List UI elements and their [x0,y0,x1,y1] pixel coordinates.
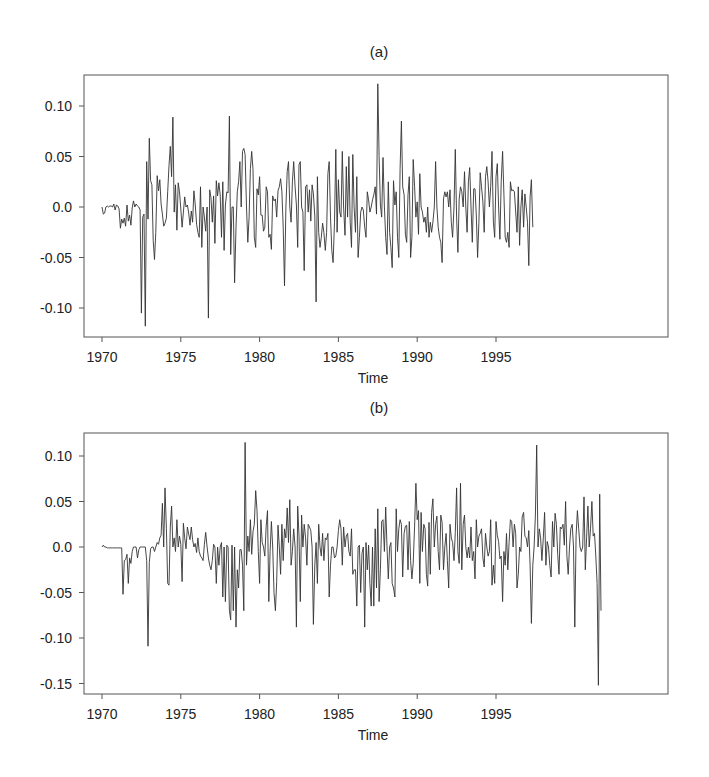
x-tick-label: 1970 [86,349,117,365]
y-tick-label: 0.10 [45,98,72,114]
x-tick-label: 1970 [86,706,117,722]
y-tick-label: -0.05 [40,250,72,266]
chart-canvas: 197019751980198519901995Time0.100.050.0-… [0,0,709,777]
series-line-a [102,84,533,326]
series-line-b [102,442,601,685]
x-tick-label: 1985 [323,349,354,365]
x-tick-label: 1995 [480,349,511,365]
y-tick-label: 0.0 [53,199,73,215]
x-tick-label: 1980 [244,706,275,722]
x-axis-title: Time [358,370,389,386]
x-tick-label: 1975 [165,706,196,722]
x-axis-title: Time [358,727,389,743]
y-tick-label: 0.10 [45,448,72,464]
y-tick-label: -0.10 [40,630,72,646]
x-tick-label: 1995 [480,706,511,722]
y-tick-label: 0.05 [45,494,72,510]
y-tick-label: 0.05 [45,149,72,165]
y-tick-label: -0.15 [40,676,72,692]
x-tick-label: 1975 [165,349,196,365]
x-tick-label: 1985 [323,706,354,722]
x-tick-label: 1990 [402,706,433,722]
x-tick-label: 1990 [402,349,433,365]
y-tick-label: -0.10 [40,300,72,316]
y-tick-label: -0.05 [40,585,72,601]
y-tick-label: 0.0 [53,539,73,555]
x-tick-label: 1980 [244,349,275,365]
